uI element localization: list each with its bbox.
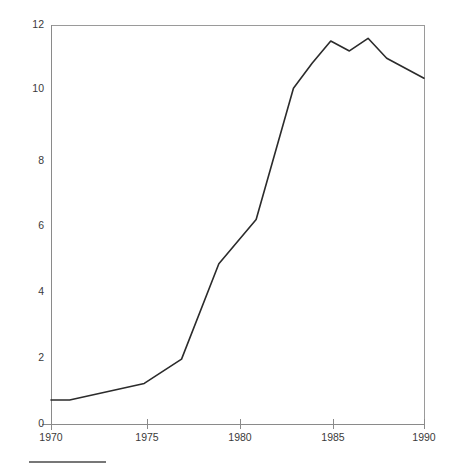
y-tick-label-6: 6: [38, 219, 44, 231]
chart-figure: 12 10 8 6 4 2 0 1970 1975 1980 1985 1990: [0, 0, 452, 470]
x-tick-label-1990: 1990: [412, 431, 436, 443]
y-tick-label-10: 10: [32, 82, 44, 94]
y-tick-label-12: 12: [32, 18, 44, 30]
y-tick-label-4: 4: [38, 285, 44, 297]
x-tick-label-1985: 1985: [321, 431, 345, 443]
x-tick-labels: 1970 1975 1980 1985 1990: [39, 431, 436, 443]
x-tick-label-1970: 1970: [39, 431, 63, 443]
x-tick-label-1975: 1975: [135, 431, 159, 443]
y-tick-label-0: 0: [38, 417, 44, 429]
y-tick-label-2: 2: [38, 351, 44, 363]
plot-frame: [51, 25, 424, 424]
line-chart: 12 10 8 6 4 2 0 1970 1975 1980 1985 1990: [0, 0, 452, 470]
y-tick-labels: 12 10 8 6 4 2 0: [32, 18, 44, 429]
y-tick-label-8: 8: [38, 154, 44, 166]
data-series-line: [51, 38, 424, 400]
x-tick-label-1980: 1980: [228, 431, 252, 443]
